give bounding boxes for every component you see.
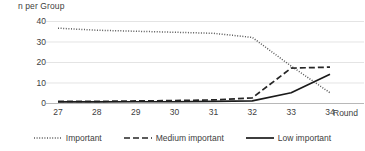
legend-label: Medium important bbox=[156, 133, 224, 143]
gridlines bbox=[46, 22, 364, 104]
legend-swatch-solid bbox=[246, 134, 274, 142]
series-line-low-important bbox=[58, 74, 330, 102]
data-series-layer bbox=[58, 28, 330, 102]
chart-legend: ImportantMedium importantLow important bbox=[0, 130, 365, 146]
legend-label: Low important bbox=[278, 133, 331, 143]
chart-container: n per Group Round 010203040 272829303132… bbox=[0, 0, 365, 151]
legend-swatch-dotted bbox=[34, 134, 62, 142]
legend-item-important[interactable]: Important bbox=[34, 133, 102, 143]
legend-swatch-dashed bbox=[124, 134, 152, 142]
plot-area bbox=[0, 0, 365, 151]
series-line-medium-important bbox=[58, 67, 330, 101]
legend-item-medium-important[interactable]: Medium important bbox=[124, 133, 224, 143]
legend-label: Important bbox=[66, 133, 102, 143]
legend-item-low-important[interactable]: Low important bbox=[246, 133, 331, 143]
